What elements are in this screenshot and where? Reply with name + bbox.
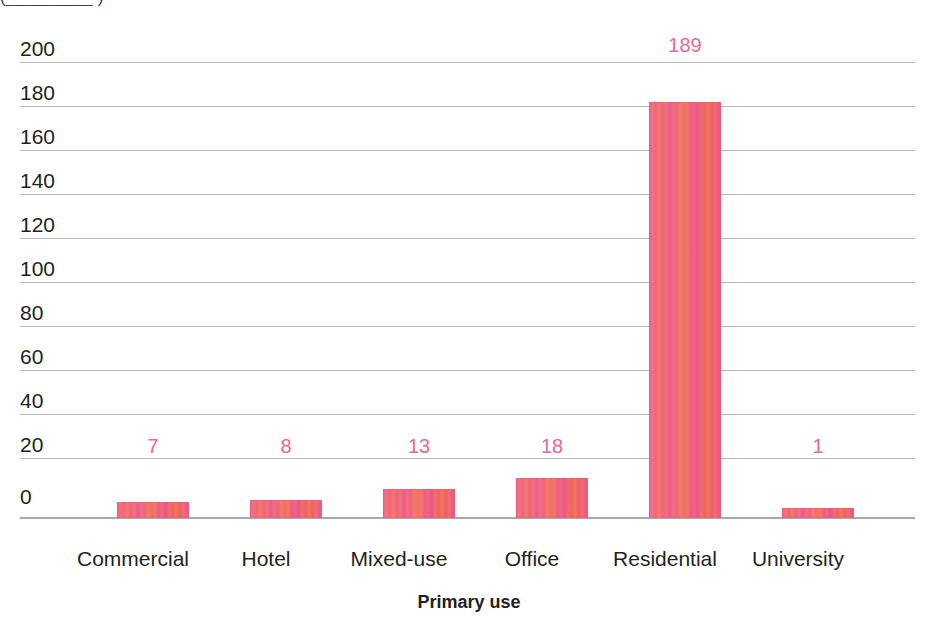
data-label-mixed-use: 13 [369, 436, 469, 456]
clipped-caption-remnant: (_________ ) [0, 0, 938, 6]
xtick-label-university: University [722, 548, 874, 570]
xtick-label-commercial: Commercial [57, 548, 209, 570]
xtick-label-hotel: Hotel [190, 548, 342, 570]
bar-residential[interactable] [649, 102, 721, 518]
data-label-office: 18 [502, 436, 602, 456]
xtick-label-office: Office [456, 548, 608, 570]
x-axis-title: Primary use [0, 592, 938, 613]
bar-mixed-use[interactable] [383, 489, 455, 518]
bar-commercial[interactable] [117, 502, 189, 518]
data-label-hotel: 8 [236, 436, 336, 456]
bar-office[interactable] [516, 478, 588, 518]
data-label-residential: 189 [635, 35, 735, 55]
xtick-label-mixed-use: Mixed-use [323, 548, 475, 570]
data-label-commercial: 7 [103, 436, 203, 456]
bar-hotel[interactable] [250, 500, 322, 518]
ytick-label-200: 200 [20, 38, 80, 59]
xtick-label-residential: Residential [589, 548, 741, 570]
bar-university[interactable] [782, 508, 854, 518]
bar-chart: (_________ ) 200 180 160 140 120 100 80 … [0, 0, 938, 625]
data-label-university: 1 [768, 436, 868, 456]
